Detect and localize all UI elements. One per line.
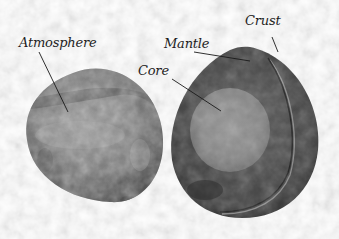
atmosphere-label: Atmosphere [19,36,97,49]
planet-layers-diagram: Atmosphere Mantle Core Crust [0,0,339,239]
crust-label: Crust [245,14,280,27]
core-label: Core [138,64,169,77]
mantle-label: Mantle [164,37,209,50]
